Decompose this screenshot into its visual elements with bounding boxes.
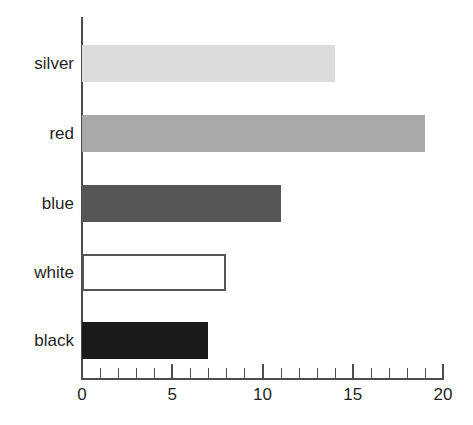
x-tick-minor <box>226 368 227 378</box>
x-tick-minor <box>118 368 119 378</box>
x-tick-major <box>352 364 354 378</box>
x-tick-minor <box>244 368 245 378</box>
bar-red <box>82 115 425 152</box>
category-label-black: black <box>2 331 74 351</box>
x-axis-line <box>81 378 444 380</box>
x-tick-major <box>442 364 444 378</box>
x-tick-minor <box>425 368 426 378</box>
x-tick-minor <box>407 368 408 378</box>
x-tick-minor <box>100 368 101 378</box>
x-tick-minor <box>371 368 372 378</box>
x-tick-minor <box>299 368 300 378</box>
x-tick-major <box>171 364 173 378</box>
x-tick-minor <box>389 368 390 378</box>
x-tick-minor <box>190 368 191 378</box>
category-axis-labels: silverredbluewhiteblack <box>0 0 74 425</box>
x-tick-label: 15 <box>333 385 373 405</box>
category-label-white: white <box>2 263 74 283</box>
bar-silver <box>82 45 335 82</box>
x-tick-minor <box>208 368 209 378</box>
x-tick-label: 10 <box>243 385 283 405</box>
x-tick-minor <box>154 368 155 378</box>
x-tick-minor <box>335 368 336 378</box>
x-tick-minor <box>281 368 282 378</box>
x-tick-label: 20 <box>423 385 463 405</box>
x-tick-minor <box>317 368 318 378</box>
x-tick-minor <box>136 368 137 378</box>
bar-black <box>82 322 208 359</box>
bar-blue <box>82 185 281 222</box>
category-label-red: red <box>2 124 74 144</box>
category-label-blue: blue <box>2 194 74 214</box>
x-tick-label: 5 <box>152 385 192 405</box>
x-tick-major <box>262 364 264 378</box>
category-label-silver: silver <box>2 54 74 74</box>
bar-chart: 05101520 silverredbluewhiteblack <box>0 0 473 425</box>
plot-area: 05101520 silverredbluewhiteblack <box>0 0 473 425</box>
bar-white <box>82 254 226 291</box>
x-tick-major <box>81 364 83 378</box>
